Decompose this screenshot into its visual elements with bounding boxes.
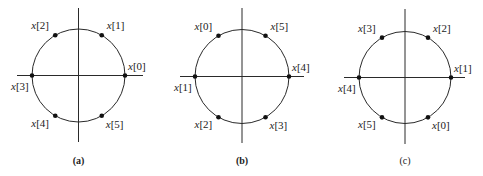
point-label: x[2] (194, 118, 213, 130)
figure-canvas: x[0]x[1]x[2]x[3]x[4]x[5](a) x[4]x[5]x[0]… (0, 0, 483, 176)
sample-point (30, 73, 35, 78)
sample-point (123, 73, 128, 78)
point-label: x[5] (270, 20, 289, 32)
sample-point (263, 115, 268, 120)
sample-point (426, 35, 431, 40)
sample-point (380, 35, 385, 40)
sample-point (53, 33, 58, 38)
point-label: x[1] (106, 19, 125, 31)
panel-a: x[0]x[1]x[2]x[3]x[4]x[5](a) (10, 8, 146, 167)
sample-point (99, 113, 104, 118)
sample-point (449, 75, 454, 80)
point-label: x[4] (291, 61, 310, 73)
point-label: x[1] (453, 62, 472, 74)
point-label: x[3] (10, 80, 29, 92)
sample-point (426, 115, 431, 120)
panel-b: x[4]x[5]x[0]x[1]x[2]x[3](b) (173, 8, 310, 167)
sample-point (287, 74, 292, 79)
panel-caption: (a) (73, 155, 85, 167)
sample-point (216, 33, 221, 38)
panel-c: x[1]x[2]x[3]x[4]x[5]x[0](c) (337, 9, 472, 167)
sample-point (216, 115, 221, 120)
point-label: x[2] (30, 19, 49, 31)
sample-point (263, 33, 268, 38)
point-label: x[2] (432, 22, 451, 34)
panel-caption: (c) (399, 155, 410, 167)
point-label: x[3] (269, 119, 288, 131)
point-label: x[0] (431, 119, 450, 131)
panel-caption: (b) (236, 155, 248, 167)
sample-point (53, 113, 58, 118)
point-label: x[4] (30, 117, 49, 129)
point-label: x[3] (357, 22, 376, 34)
sample-point (193, 74, 198, 79)
point-label: x[0] (194, 20, 213, 32)
point-label: x[0] (127, 60, 146, 72)
point-label: x[5] (105, 118, 124, 130)
point-label: x[5] (357, 118, 376, 130)
point-label: x[4] (337, 82, 356, 94)
sample-point (380, 115, 385, 120)
point-label: x[1] (173, 81, 192, 93)
sample-point (357, 75, 362, 80)
sample-point (99, 33, 104, 38)
